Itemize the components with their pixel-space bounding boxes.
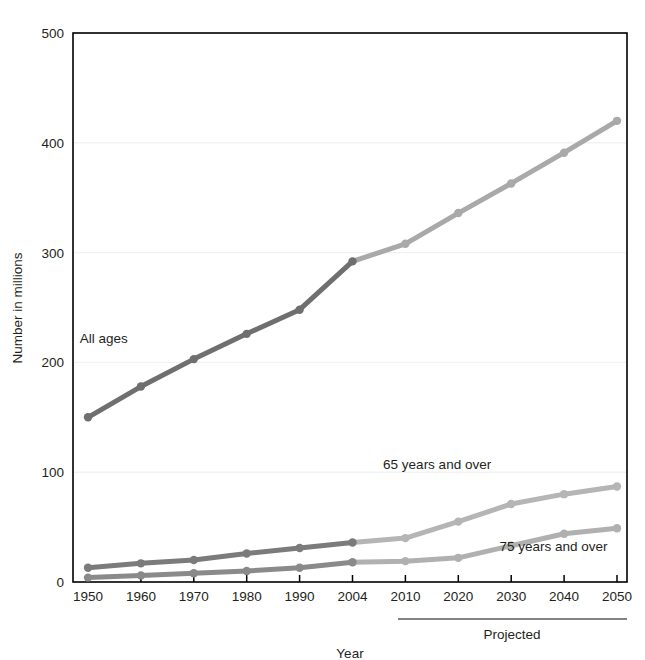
data-point xyxy=(560,490,568,498)
data-point xyxy=(454,517,462,525)
series-annotation: 65 years and over xyxy=(383,457,492,472)
x-tick-label: 1960 xyxy=(126,589,156,604)
projected-label: Projected xyxy=(483,627,540,642)
data-point xyxy=(401,557,409,565)
data-point xyxy=(348,558,356,566)
x-tick-label: 2004 xyxy=(337,589,368,604)
data-point xyxy=(348,257,356,265)
data-point xyxy=(507,500,515,508)
x-tick-label: 1970 xyxy=(179,589,209,604)
line-chart-canvas: 1950196019701980199020042010202020302040… xyxy=(0,0,645,660)
x-tick-label: 1980 xyxy=(232,589,262,604)
gridlines xyxy=(73,33,627,472)
x-tick-label: 1950 xyxy=(73,589,103,604)
data-point xyxy=(243,567,251,575)
data-point xyxy=(348,538,356,546)
data-point xyxy=(84,413,92,421)
data-point xyxy=(243,330,251,338)
data-point xyxy=(613,482,621,490)
data-point xyxy=(295,305,303,313)
x-axis-tick-labels: 1950196019701980199020042010202020302040… xyxy=(73,589,632,604)
series-1 xyxy=(84,117,621,422)
x-tick-label: 2030 xyxy=(496,589,526,604)
y-tick-label: 300 xyxy=(41,246,64,261)
data-point xyxy=(84,573,92,581)
x-tick-label: 1990 xyxy=(285,589,315,604)
y-axis-title: Number in millions xyxy=(10,252,25,363)
data-point xyxy=(454,209,462,217)
data-point xyxy=(560,148,568,156)
chart-figure: 1950196019701980199020042010202020302040… xyxy=(0,0,645,660)
x-axis-title: Year xyxy=(336,646,364,660)
x-tick-label: 2020 xyxy=(443,589,473,604)
x-tick-label: 2010 xyxy=(390,589,420,604)
data-point xyxy=(137,571,145,579)
x-tick-label: 2040 xyxy=(549,589,579,604)
data-point xyxy=(613,524,621,532)
x-tick-label: 2050 xyxy=(602,589,632,604)
y-tick-label: 200 xyxy=(41,355,64,370)
data-series-layer xyxy=(84,117,621,582)
data-point xyxy=(295,564,303,572)
data-point xyxy=(454,554,462,562)
data-point xyxy=(84,564,92,572)
data-point xyxy=(190,569,198,577)
y-tick-label: 400 xyxy=(41,136,64,151)
series-annotation: All ages xyxy=(80,331,128,346)
data-point xyxy=(137,559,145,567)
data-point xyxy=(295,544,303,552)
data-point xyxy=(190,355,198,363)
y-tick-label: 500 xyxy=(41,26,64,41)
data-point xyxy=(401,240,409,248)
series-line-projected xyxy=(353,121,618,262)
data-point xyxy=(190,556,198,564)
data-point xyxy=(243,549,251,557)
data-point xyxy=(507,179,515,187)
data-point xyxy=(137,382,145,390)
data-point xyxy=(401,534,409,542)
series-annotation: 75 years and over xyxy=(499,539,608,554)
y-tick-label: 0 xyxy=(56,575,64,590)
y-axis-tick-labels: 0100200300400500 xyxy=(41,26,64,590)
y-tick-label: 100 xyxy=(41,465,64,480)
data-point xyxy=(613,117,621,125)
series-annotations: All ages65 years and over75 years and ov… xyxy=(80,331,608,555)
data-point xyxy=(560,529,568,537)
